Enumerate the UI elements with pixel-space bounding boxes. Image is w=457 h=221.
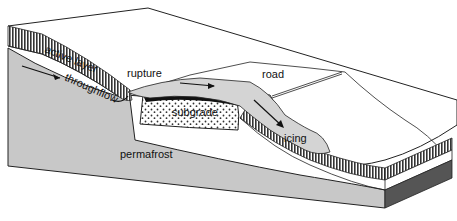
label-permafrost: permafrost (120, 148, 173, 160)
label-road: road (262, 68, 284, 80)
label-rupture: rupture (127, 67, 162, 79)
label-icing: icing (284, 132, 307, 144)
label-subgrade: subgrade (172, 106, 218, 118)
block-diagram: active layer throughflow rupture road su… (0, 0, 457, 221)
